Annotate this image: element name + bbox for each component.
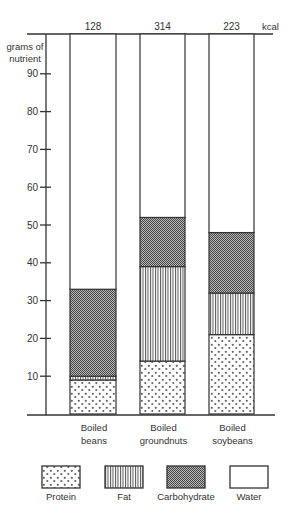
y-axis-label-line1: grams of — [7, 41, 44, 52]
y-axis-label-line2: nutrient — [9, 53, 41, 64]
y-tick-label: 90 — [27, 68, 39, 79]
bars: 128Boiledbeans314Boiledgroundnuts223Boil… — [70, 21, 254, 446]
stacked-bar-chart: grams of nutrient kcal 10203040506070809… — [0, 0, 290, 520]
legend-label: Fat — [117, 491, 131, 502]
segment-fat — [140, 267, 185, 362]
segment-carbohydrate — [70, 289, 116, 376]
legend-item-carbohydrate: Carbohydrate — [157, 466, 215, 502]
segment-fat — [209, 293, 254, 335]
segment-protein — [70, 380, 116, 414]
y-tick-label: 30 — [27, 295, 39, 306]
category-label: Boiled — [219, 422, 245, 433]
legend: ProteinFatCarbohydrateWater — [42, 466, 268, 502]
category-label: groundnuts — [140, 435, 188, 446]
segment-water — [209, 34, 254, 233]
kcal-label: kcal — [262, 21, 279, 32]
legend-swatch — [42, 466, 80, 488]
kcal-value: 223 — [223, 21, 240, 32]
y-tick-label: 40 — [27, 257, 39, 268]
y-tick-label: 10 — [27, 371, 39, 382]
category-label: Boiled — [150, 422, 176, 433]
y-tick-label: 20 — [27, 333, 39, 344]
y-tick-label: 50 — [27, 220, 39, 231]
legend-item-protein: Protein — [42, 466, 80, 502]
legend-swatch — [230, 466, 268, 488]
segment-carbohydrate — [209, 233, 254, 293]
y-tick-label: 70 — [27, 144, 39, 155]
legend-label: Carbohydrate — [157, 491, 215, 502]
segment-water — [70, 34, 116, 289]
kcal-value: 128 — [85, 21, 102, 32]
legend-swatch — [105, 466, 143, 488]
legend-label: Protein — [46, 491, 76, 502]
category-label: beans — [81, 435, 107, 446]
category-label: soybeans — [212, 435, 253, 446]
y-ticks: 102030405060708090 — [27, 68, 51, 381]
bar-boiled-groundnuts: 314Boiledgroundnuts — [140, 21, 188, 446]
bar-boiled-beans: 128Boiledbeans — [70, 21, 116, 446]
category-label: Boiled — [81, 422, 107, 433]
segment-protein — [140, 361, 185, 414]
bar-boiled-soybeans: 223Boiledsoybeans — [209, 21, 254, 446]
kcal-value: 314 — [154, 21, 171, 32]
segment-carbohydrate — [140, 217, 185, 266]
segment-water — [140, 34, 185, 217]
y-tick-label: 60 — [27, 182, 39, 193]
legend-swatch — [167, 466, 205, 488]
legend-label: Water — [237, 491, 262, 502]
legend-item-water: Water — [230, 466, 268, 502]
segment-protein — [209, 335, 254, 414]
legend-item-fat: Fat — [105, 466, 143, 502]
y-tick-label: 80 — [27, 106, 39, 117]
